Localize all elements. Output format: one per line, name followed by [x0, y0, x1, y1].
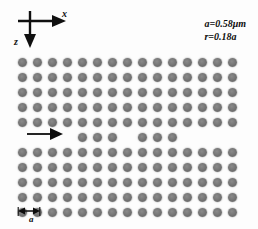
air-hole — [48, 88, 57, 97]
air-hole — [198, 88, 207, 97]
air-hole — [228, 163, 237, 172]
air-hole — [108, 163, 117, 172]
air-hole — [153, 88, 162, 97]
air-hole — [198, 208, 207, 217]
air-hole — [153, 133, 162, 142]
air-hole — [153, 208, 162, 217]
air-hole — [18, 178, 27, 187]
air-hole — [78, 88, 87, 97]
air-hole — [198, 163, 207, 172]
air-hole — [63, 148, 72, 157]
air-hole — [63, 103, 72, 112]
air-hole — [198, 73, 207, 82]
air-hole — [78, 163, 87, 172]
air-hole — [198, 178, 207, 187]
air-hole — [48, 58, 57, 67]
air-hole — [138, 58, 147, 67]
air-hole — [123, 88, 132, 97]
air-hole — [168, 163, 177, 172]
air-hole — [78, 118, 87, 127]
air-hole — [78, 178, 87, 187]
lattice-constant-marker: a — [16, 205, 50, 227]
air-hole — [138, 148, 147, 157]
air-hole — [168, 58, 177, 67]
air-hole — [93, 193, 102, 202]
air-hole — [228, 148, 237, 157]
air-hole — [228, 73, 237, 82]
air-hole — [168, 148, 177, 157]
air-hole — [183, 118, 192, 127]
air-hole — [33, 163, 42, 172]
air-hole — [48, 148, 57, 157]
air-hole — [153, 148, 162, 157]
air-hole — [123, 118, 132, 127]
air-hole — [138, 178, 147, 187]
air-hole — [63, 208, 72, 217]
air-hole — [213, 103, 222, 112]
air-hole — [168, 133, 177, 142]
air-hole — [78, 148, 87, 157]
air-hole — [123, 73, 132, 82]
air-hole — [198, 193, 207, 202]
air-hole — [63, 193, 72, 202]
air-hole — [108, 178, 117, 187]
air-hole — [78, 133, 87, 142]
air-hole — [33, 88, 42, 97]
air-hole — [108, 73, 117, 82]
air-hole — [153, 163, 162, 172]
air-hole — [48, 193, 57, 202]
air-hole — [213, 118, 222, 127]
air-hole — [93, 163, 102, 172]
air-hole — [33, 73, 42, 82]
air-hole — [198, 118, 207, 127]
air-hole — [183, 73, 192, 82]
air-hole — [63, 178, 72, 187]
air-hole — [33, 58, 42, 67]
photonic-crystal-figure: x z a=0.58μm r=0.18a a — [0, 0, 258, 229]
air-hole — [123, 163, 132, 172]
air-hole — [228, 58, 237, 67]
air-hole — [93, 118, 102, 127]
air-hole — [18, 103, 27, 112]
air-hole — [213, 208, 222, 217]
air-hole — [48, 163, 57, 172]
air-hole — [213, 193, 222, 202]
air-hole — [138, 103, 147, 112]
air-hole — [123, 178, 132, 187]
air-hole — [78, 103, 87, 112]
air-hole — [18, 73, 27, 82]
air-hole — [228, 103, 237, 112]
air-hole — [138, 118, 147, 127]
air-hole — [183, 178, 192, 187]
air-hole — [108, 88, 117, 97]
air-hole — [123, 103, 132, 112]
air-hole — [198, 148, 207, 157]
air-hole — [78, 58, 87, 67]
air-hole — [93, 73, 102, 82]
air-hole — [213, 73, 222, 82]
air-hole — [153, 178, 162, 187]
air-hole — [93, 208, 102, 217]
air-hole — [168, 118, 177, 127]
air-hole — [18, 163, 27, 172]
air-hole — [213, 163, 222, 172]
air-hole — [168, 88, 177, 97]
air-hole — [18, 88, 27, 97]
air-hole — [123, 148, 132, 157]
air-hole — [33, 148, 42, 157]
air-hole — [33, 103, 42, 112]
air-hole — [123, 208, 132, 217]
air-hole — [153, 118, 162, 127]
air-hole — [213, 178, 222, 187]
air-hole — [183, 208, 192, 217]
air-hole — [228, 118, 237, 127]
air-hole — [138, 133, 147, 142]
air-hole — [108, 133, 117, 142]
air-hole — [183, 148, 192, 157]
air-hole — [168, 178, 177, 187]
air-hole — [228, 208, 237, 217]
air-hole — [33, 178, 42, 187]
air-hole — [108, 148, 117, 157]
air-hole — [228, 88, 237, 97]
air-hole — [138, 193, 147, 202]
